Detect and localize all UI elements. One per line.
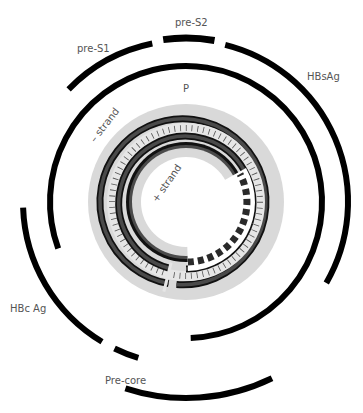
label-hbsag: HBsAg: [307, 71, 340, 82]
label-pre-s1: pre-S1: [77, 43, 110, 54]
arc-hbcag: [23, 208, 102, 342]
arc-bottom: [125, 378, 272, 398]
plus-strand-region: [112, 128, 260, 276]
label-pre-s2: pre-S2: [175, 17, 208, 28]
label-precore: Pre-core: [105, 375, 146, 386]
hbv-genome-diagram: pre-S1 pre-S2 HBsAg P – strand + strand …: [0, 0, 363, 413]
arc-precore: [115, 349, 139, 358]
label-p: P: [183, 83, 189, 94]
label-hbcag: HBc Ag: [10, 303, 46, 314]
arc-pre-s2: [163, 38, 214, 40]
